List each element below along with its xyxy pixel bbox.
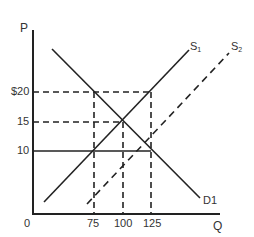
- supply-demand-chart: P Q 0 $20 15 10 75 100 125 S1 S2 D1: [0, 0, 254, 237]
- y-axis-label: P: [20, 22, 28, 34]
- x-axis-label: Q: [213, 220, 222, 232]
- s2-label: S2: [231, 41, 242, 53]
- supply-curve-s2: [87, 53, 229, 204]
- y-tick-20: $20: [11, 86, 29, 97]
- s1-label: S1: [190, 41, 201, 53]
- y-tick-10: 10: [17, 145, 29, 156]
- x-tick-125: 125: [143, 218, 161, 229]
- demand-curve-d1: [52, 49, 200, 198]
- y-tick-15: 15: [17, 116, 29, 127]
- x-tick-75: 75: [87, 218, 99, 229]
- origin-label: 0: [24, 218, 30, 229]
- s2-label-sub: 2: [238, 46, 242, 53]
- x-tick-100: 100: [114, 218, 132, 229]
- s1-label-sub: 1: [197, 46, 201, 53]
- supply-curve-s1: [44, 50, 189, 202]
- d1-label: D1: [203, 195, 217, 206]
